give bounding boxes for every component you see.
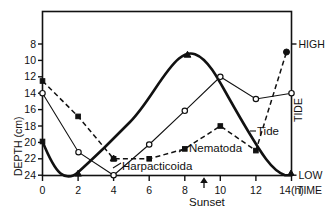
x-axis-title: TIME: [297, 184, 322, 196]
nematoda-point-x10: [218, 74, 223, 79]
tide-annotation-label: Tide: [257, 125, 279, 137]
right-axis-title: TIDE: [292, 98, 304, 122]
nematoda-annotation-label: Nematoda: [189, 142, 243, 154]
nematoda-point-x8: [182, 108, 187, 113]
harpacticoida-point-x0: [40, 79, 45, 84]
harpacticoida-point-x14: [284, 49, 290, 55]
x-tick-label-0: 0: [40, 184, 46, 196]
harpacticoida-leader-line: [113, 163, 121, 168]
x-tick-label-4: 4: [111, 184, 117, 196]
annotation-nematoda: Nematoda: [179, 142, 243, 154]
x-tick-label-10: 10: [214, 184, 226, 196]
x-tick-label-2: 2: [75, 184, 81, 196]
harpacticoida-point-x4: [111, 157, 116, 162]
harpacticoida-line-path: [43, 52, 287, 159]
y-tick-label-24: 24: [24, 169, 36, 181]
nematoda-point-x2: [76, 150, 81, 155]
y-tick-label-10: 10: [24, 54, 36, 66]
harpacticoida-point-x12: [254, 148, 259, 153]
chart-figure: 8 10 12 14 16 18 20 22 24 DEPTH (cm) 0: [0, 0, 333, 216]
y-tick-label-22: 22: [24, 152, 36, 164]
y-axis-depth: 8 10 12 14 16 18 20 22 24: [24, 38, 42, 181]
series-harpacticoida: [40, 49, 289, 161]
sunset-arrow-icon: [201, 178, 206, 188]
annotation-harpacticoida: Harpacticoida: [113, 160, 193, 172]
y-tick-label-16: 16: [24, 103, 36, 115]
tide-label-high: HIGH: [299, 38, 325, 50]
annotation-tide: Tide: [250, 125, 279, 137]
harpacticoida-point-x10: [218, 124, 223, 129]
nematoda-point-x12: [253, 96, 258, 101]
nematoda-point-x14: [289, 91, 294, 96]
nematoda-point-x0: [40, 91, 45, 96]
y-tick-label-8: 8: [30, 38, 36, 50]
harpacticoida-annotation-label: Harpacticoida: [122, 160, 193, 172]
x-axis-time: 0 2 4 6 8 10 12 14(h): [40, 176, 304, 197]
y-tick-label-14: 14: [24, 87, 36, 99]
sunset-label: Sunset: [189, 196, 226, 208]
depth-tide-time-chart: 8 10 12 14 16 18 20 22 24 DEPTH (cm) 0: [0, 0, 333, 216]
y-axis-title: DEPTH (cm): [12, 117, 24, 177]
tide-origin-point: [40, 139, 45, 144]
y-tick-label-20: 20: [24, 136, 36, 148]
harpacticoida-point-x2: [76, 114, 81, 119]
y-tick-label-12: 12: [24, 70, 36, 82]
x-tick-label-8: 8: [182, 184, 188, 196]
y-tick-label-18: 18: [24, 120, 36, 132]
tide-label-low: LOW: [299, 169, 323, 181]
tide-marker-x14: [288, 170, 294, 175]
nematoda-point-x6: [147, 142, 152, 147]
right-axis-tide: HIGH LOW TIDE: [292, 38, 325, 181]
nematoda-point-x4: [111, 173, 116, 178]
x-tick-label-6: 6: [146, 184, 152, 196]
x-tick-label-12: 12: [250, 184, 262, 196]
